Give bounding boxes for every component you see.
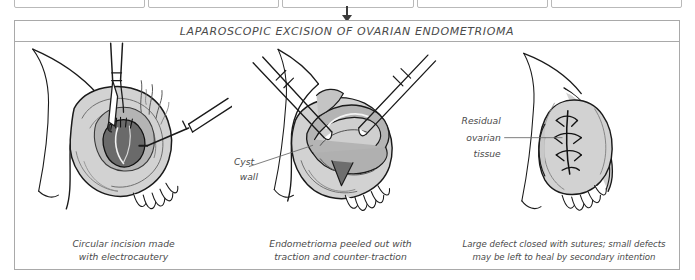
cyst-wall-label-line1: Cyst xyxy=(234,156,255,167)
top-box[interactable] xyxy=(551,0,682,8)
residual-label-line3: tissue xyxy=(474,148,502,159)
caption-line: with electrocautery xyxy=(15,251,232,264)
caption-line: Large defect closed with sutures; small … xyxy=(449,238,679,251)
caption-line: Circular incision made xyxy=(15,238,232,251)
panel-row: Circular incision made with electrocaute… xyxy=(15,42,679,271)
top-box[interactable] xyxy=(417,0,548,8)
panel-3: Residual ovarian tissue Large defect clo… xyxy=(449,42,679,271)
top-box-strip xyxy=(14,0,682,6)
residual-label-line2: ovarian xyxy=(466,132,501,143)
caption-line: traction and counter-traction xyxy=(232,251,449,264)
figure-title: LAPAROSCOPIC EXCISION OF OVARIAN ENDOMET… xyxy=(180,25,514,38)
figure-title-bar: LAPAROSCOPIC EXCISION OF OVARIAN ENDOMET… xyxy=(15,21,679,42)
panel-2-caption: Endometrioma peeled out with traction an… xyxy=(232,238,449,263)
panel-1-caption: Circular incision made with electrocaute… xyxy=(15,238,232,263)
panel-2-illustration: Cyst wall xyxy=(232,42,449,218)
caption-line: may be left to heal by secondary intenti… xyxy=(449,251,679,264)
caption-line: Endometrioma peeled out with xyxy=(232,238,449,251)
top-box[interactable] xyxy=(282,0,413,8)
panel-1: Circular incision made with electrocaute… xyxy=(15,42,232,271)
cyst-wall-label-line2: wall xyxy=(240,171,259,182)
residual-label-line1: Residual xyxy=(462,115,502,126)
panel-3-illustration: Residual ovarian tissue xyxy=(449,42,679,218)
panel-1-illustration xyxy=(15,42,232,218)
top-box[interactable] xyxy=(14,0,145,8)
figure-frame: LAPAROSCOPIC EXCISION OF OVARIAN ENDOMET… xyxy=(14,20,680,270)
top-box[interactable] xyxy=(148,0,279,8)
panel-3-caption: Large defect closed with sutures; small … xyxy=(449,238,679,263)
panel-2: Cyst wall Endometrioma peeled out with t… xyxy=(232,42,449,271)
